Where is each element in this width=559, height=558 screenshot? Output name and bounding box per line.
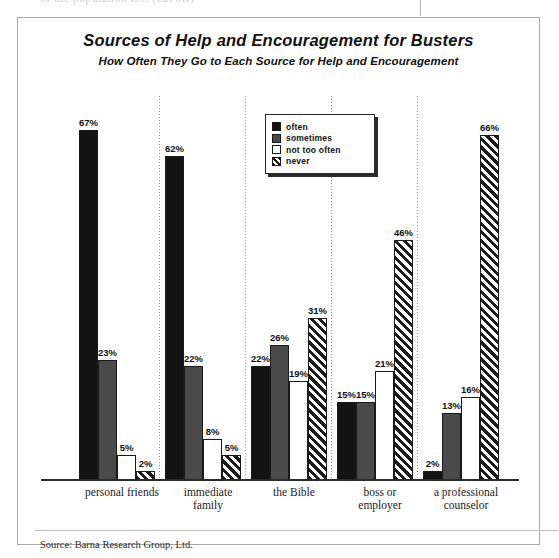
bar-nottoooften [461, 397, 480, 481]
source-note: Source: Barna Research Group, Ltd. [40, 539, 193, 550]
legend-swatch-often [272, 122, 281, 131]
bar-group: 67%23%5%2% [79, 96, 165, 481]
legend-item-nottoooften: not too often [272, 145, 368, 155]
legend-label: never [286, 156, 310, 166]
bar-value-label: 67% [75, 117, 102, 128]
bar-value-label: 23% [94, 347, 121, 358]
bar-sometimes [270, 345, 289, 481]
bar-sometimes [98, 360, 117, 481]
bar-sometimes [184, 366, 203, 481]
bar-value-label: 8% [199, 426, 226, 437]
bar-never [480, 135, 499, 481]
category-label-line: family [153, 499, 263, 512]
bar-sometimes [356, 402, 375, 481]
legend-swatch-sometimes [272, 134, 281, 143]
bar-often [251, 366, 270, 481]
bar-value-label: 62% [161, 143, 188, 154]
bar-nottoooften [289, 381, 308, 481]
bar-value-label: 26% [266, 332, 293, 343]
group-separator-4 [417, 96, 418, 481]
page-title: Sources of Help and Encouragement for Bu… [18, 31, 539, 50]
bar-group: 62%22%8%5% [165, 96, 251, 481]
group-separator-1 [159, 96, 160, 481]
chart-title-block: Sources of Help and Encouragement for Bu… [18, 18, 539, 67]
bar-often [79, 130, 98, 481]
category-label-line: a professional [411, 486, 521, 499]
bar-value-label: 2% [132, 458, 159, 469]
legend-item-often: often [272, 122, 368, 132]
category-label: a professionalcounselor [411, 486, 521, 512]
cut-off-text: of the population is... (cut off) [40, 0, 194, 6]
column-rule [420, 0, 421, 16]
bar-nottoooften [375, 371, 394, 481]
chart-legend: oftensometimesnot too oftennever [265, 114, 375, 174]
bar-value-label: 46% [390, 227, 417, 238]
legend-item-sometimes: sometimes [272, 133, 368, 143]
bar-value-label: 5% [218, 442, 245, 453]
bar-often [165, 156, 184, 481]
bar-value-label: 66% [476, 122, 503, 133]
bar-value-label: 22% [180, 353, 207, 364]
category-label-line: counselor [411, 499, 521, 512]
bar-often [337, 402, 356, 481]
bar-sometimes [442, 413, 461, 481]
bar-never [394, 240, 413, 481]
page-top-cut-text: of the population is... (cut off) [0, 0, 559, 16]
bar-group: 2%13%16%66% [423, 96, 509, 481]
x-axis-baseline [41, 479, 519, 481]
bar-value-label: 5% [113, 442, 140, 453]
legend-label: sometimes [286, 133, 332, 143]
footer-divider [35, 530, 558, 531]
bar-never [222, 455, 241, 481]
bar-value-label: 31% [304, 305, 331, 316]
chart-figure: Sources of Help and Encouragement for Bu… [17, 17, 540, 545]
chart-subtitle: How Often They Go to Each Source for Hel… [18, 55, 539, 67]
bar-never [308, 318, 327, 481]
group-separator-2 [245, 96, 246, 481]
legend-swatch-nottoooften [272, 145, 281, 154]
legend-label: not too often [286, 145, 341, 155]
legend-label: often [286, 122, 308, 132]
legend-item-never: never [272, 156, 368, 166]
legend-swatch-never [272, 157, 281, 166]
